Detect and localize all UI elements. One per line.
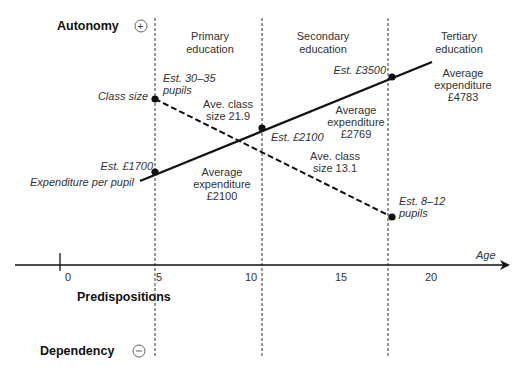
annotation-tertiary-expenditure: Average bbox=[443, 67, 484, 79]
stage-title-secondary: education bbox=[299, 43, 347, 55]
expenditure-point-label: Est. £3500 bbox=[333, 64, 386, 76]
x-tick-label: 5 bbox=[156, 271, 162, 283]
x-tick-label: 0 bbox=[65, 271, 71, 283]
stage-title-tertiary: education bbox=[435, 43, 483, 55]
expenditure-point bbox=[388, 73, 395, 80]
class-size-point-label: pupils bbox=[398, 207, 428, 219]
class-size-point bbox=[151, 95, 158, 102]
expenditure-point-label: Est. £2100 bbox=[271, 131, 324, 143]
stage-title-tertiary: Tertiary bbox=[441, 30, 478, 42]
stage-title-primary: Primary bbox=[191, 30, 229, 42]
annotation-tertiary-expenditure: expenditure bbox=[434, 79, 492, 91]
class-size-series-label: Class size bbox=[98, 90, 148, 102]
annotation-primary-class-size: Ave. class bbox=[203, 98, 253, 110]
class-size-point-label: Est. 8–12 bbox=[399, 195, 445, 207]
annotation-secondary-expenditure: expenditure bbox=[327, 116, 385, 128]
stage-title-secondary: Secondary bbox=[297, 30, 350, 42]
annotation-secondary-expenditure: £2769 bbox=[341, 128, 372, 140]
stage-title-primary: education bbox=[186, 43, 234, 55]
annotation-secondary-class-size: Ave. class bbox=[310, 150, 360, 162]
plus-symbol: + bbox=[138, 21, 144, 32]
class-size-point-label: pupils bbox=[162, 84, 192, 96]
x-tick-label: 20 bbox=[425, 271, 437, 283]
x-tick-label: 10 bbox=[245, 271, 257, 283]
annotation-secondary-class-size: size 13.1 bbox=[313, 162, 357, 174]
annotation-primary-class-size: size 21.9 bbox=[206, 110, 250, 122]
x-tick-label: 15 bbox=[335, 271, 347, 283]
annotation-tertiary-expenditure: £4783 bbox=[448, 91, 479, 103]
annotation-secondary-expenditure: Average bbox=[336, 104, 377, 116]
autonomy-label: Autonomy bbox=[57, 19, 119, 33]
class-size-point-label: Est. 30–35 bbox=[163, 72, 216, 84]
expenditure-series-label: Expenditure per pupil bbox=[30, 176, 135, 188]
diagram: Age 0 5 10 15 20 Autonomy + Predispositi… bbox=[0, 0, 529, 375]
expenditure-point-label: Est. £1700 bbox=[100, 160, 153, 172]
annotation-primary-expenditure: expenditure bbox=[193, 178, 251, 190]
annotation-primary-expenditure: £2100 bbox=[207, 190, 238, 202]
class-size-point bbox=[388, 213, 395, 220]
dependency-label: Dependency bbox=[40, 344, 114, 358]
predispositions-label: Predispositions bbox=[77, 290, 171, 304]
annotation-primary-expenditure: Average bbox=[202, 166, 243, 178]
expenditure-point bbox=[258, 124, 265, 131]
x-axis-label: Age bbox=[475, 249, 496, 261]
